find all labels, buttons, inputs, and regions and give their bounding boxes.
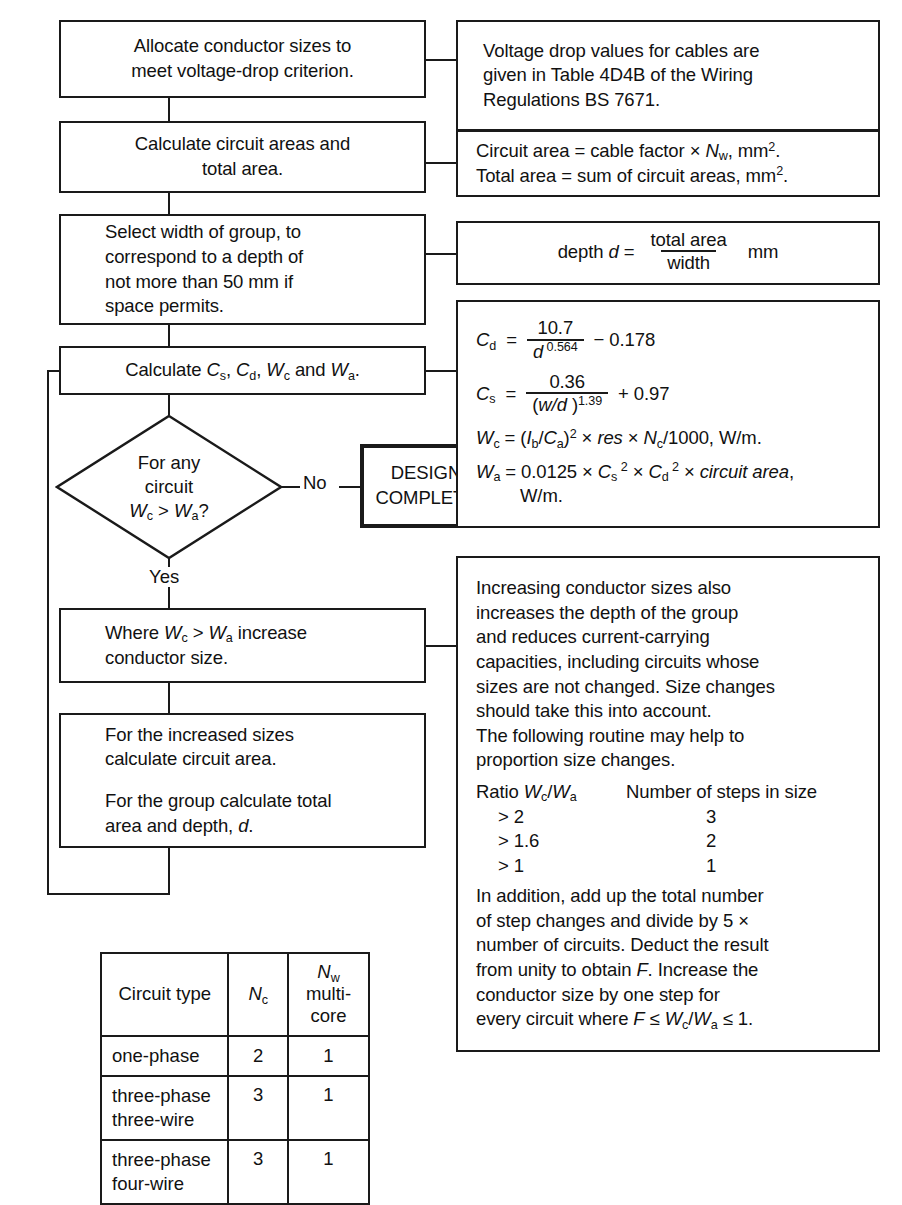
connector-allocate-to-note-voltage [425,59,458,61]
table-cell-circuit-type: three-phase four-wire [101,1140,228,1204]
connector-decision-no-right [339,486,361,488]
feedback-loop-down [168,848,170,895]
flow-box-select-width-line-4: space permits. [105,294,408,319]
table-cell-nw: 1 [288,1076,369,1140]
connector-increase-to-note-increasing [425,645,458,647]
table-header-nw: Nw multi-core [288,953,369,1036]
flow-box-calc-areas-line-2: total area. [77,157,408,182]
formula-wa: Wa = 0.0125 × Cs 2 × Cd 2 × circuit area… [476,460,862,509]
flow-box-calc-areas-line-1: Calculate circuit areas and [77,132,408,157]
table-header-nc: Nc [228,953,288,1036]
decision-no-label: No [300,473,330,493]
flow-box-recalculate: For the increased sizes calculate circui… [59,713,426,848]
flow-box-select-width-line-2: correspond to a depth of [105,245,408,270]
table-cell-circuit-type-line-2: four-wire [112,1173,184,1194]
flow-box-increase-size-line-2: conductor size. [105,646,408,671]
note-closing-line-5: conductor size by one step for [476,983,862,1008]
ratio-table-header-right: Number of steps in size [626,780,817,805]
flow-box-increase-size-line-1: Where Wc > Wa increase [105,621,408,646]
table-cell-circuit-type-line-1: three-phase [112,1149,211,1170]
flow-box-select-width: Select width of group, to correspond to … [59,214,426,325]
table-cell-circuit-type: one-phase [101,1036,228,1076]
depth-numerator: total area [645,229,733,250]
note-increasing-line-5: sizes are not changed. Size changes [476,675,862,700]
table-row: three-phase three-wire 3 1 [101,1076,369,1140]
circuit-type-table: Circuit type Nc Nw multi-core one-phase … [100,952,370,1205]
note-circuit-area-line-1: Circuit area = cable factor × Nw, mm2. [476,139,862,164]
note-increasing-line-8: proportion size changes. [476,748,862,773]
note-increasing-line-7: The following routine may help to [476,724,862,749]
table-row: three-phase four-wire 3 1 [101,1140,369,1204]
table-cell-circuit-type: three-phase three-wire [101,1076,228,1140]
note-formulas: Cd = 10.7 d 0.564 − 0.178 Cs = 0.36 (w/d… [456,300,880,528]
note-voltage-drop: Voltage drop values for cables are given… [456,20,880,131]
flow-box-recalculate-line-2: calculate circuit area. [105,747,408,772]
connector-selectwidth-to-calcc [168,325,170,346]
ratio-table-header: Ratio Wc/Wa Number of steps in size [476,780,862,805]
ratio-table-row: > 1.6 2 [476,829,862,854]
note-increasing-sizes: Increasing conductor sizes also increase… [456,556,880,1052]
decision-diamond: For any circuit Wc > Wa? [55,414,283,560]
ratio-table-header-left: Ratio Wc/Wa [476,780,626,805]
flow-box-select-width-line-3: not more than 50 mm if [105,270,408,295]
formula-cs: Cs = 0.36 (w/d )1.39 + 0.97 [476,373,862,418]
note-increasing-line-1: Increasing conductor sizes also [476,576,862,601]
note-closing-line-6: every circuit where F ≤ Wc/Wa ≤ 1. [476,1007,862,1032]
formula-cd: Cd = 10.7 d 0.564 − 0.178 [476,319,862,364]
table-cell-nw: 1 [288,1036,369,1076]
ratio-steps: 2 [626,829,796,854]
note-circuit-area-line-2: Total area = sum of circuit areas, mm2. [476,164,862,189]
table-cell-nw: 1 [288,1140,369,1204]
decision-yes-label: Yes [146,567,182,587]
connector-selectwidth-to-note-depth [425,253,458,255]
ratio-table-row: > 2 3 [476,805,862,830]
flow-box-recalculate-line-4: area and depth, d. [105,814,408,839]
note-depth-formula-expression: depth d = total area width mm [458,231,878,276]
note-circuit-area: Circuit area = cable factor × Nw, mm2. T… [456,130,880,197]
connector-decision-no-left [281,486,302,488]
flow-box-calc-coefficients-text: Calculate Cs, Cd, Wc and Wa. [61,358,424,383]
table-row: one-phase 2 1 [101,1036,369,1076]
note-increasing-line-3: and reduces current-carrying [476,625,862,650]
connector-increase-to-recalc [168,683,170,713]
flow-box-increase-size: Where Wc > Wa increase conductor size. [59,608,426,683]
connector-calcareas-to-note-area [425,162,458,164]
flow-box-calc-areas: Calculate circuit areas and total area. [59,121,426,193]
note-closing-line-4: from unity to obtain F. Increase the [476,958,862,983]
ratio-steps: 3 [626,805,796,830]
flow-box-allocate-line-1: Allocate conductor sizes to [77,34,408,59]
flow-box-recalculate-line-3: For the group calculate total [105,789,408,814]
note-increasing-line-4: capacities, including circuits whose [476,650,862,675]
decision-diamond-shape [55,414,283,560]
note-voltage-drop-line-1: Voltage drop values for cables are [483,39,862,64]
flow-box-allocate-line-2: meet voltage-drop criterion. [77,59,408,84]
connector-calcc-to-decision [168,395,170,415]
table-cell-nc: 3 [228,1076,288,1140]
note-closing-line-1: In addition, add up the total number [476,884,862,909]
note-voltage-drop-line-3: Regulations BS 7671. [483,88,862,113]
depth-denominator: width [661,250,716,273]
ratio-steps: 1 [626,854,796,879]
connector-calcc-to-note-formulas [425,370,458,372]
table-header-circuit-type: Circuit type [101,953,228,1036]
ratio-value: > 2 [476,805,626,830]
formula-wc: Wc = (Ib/Ca)2 × res × Nc/1000, W/m. [476,426,862,451]
note-closing-line-3: number of circuits. Deduct the result [476,933,862,958]
note-depth-formula: depth d = total area width mm [456,221,880,285]
table-cell-nc: 2 [228,1036,288,1076]
ratio-value: > 1.6 [476,829,626,854]
table-cell-circuit-type-line-2: three-wire [112,1109,194,1130]
ratio-table-row: > 1 1 [476,854,862,879]
connector-calcareas-to-selectwidth [168,193,170,214]
table-cell-circuit-type-line-1: three-phase [112,1085,211,1106]
feedback-loop-bottom [47,893,170,895]
flow-box-select-width-line-1: Select width of group, to [105,220,408,245]
note-increasing-line-2: increases the depth of the group [476,601,862,626]
note-closing-line-2: of step changes and divide by 5 × [476,909,862,934]
feedback-loop-into-calcc [47,370,61,372]
table-cell-nc: 3 [228,1140,288,1204]
table-header-row: Circuit type Nc Nw multi-core [101,953,369,1036]
feedback-loop-up [47,370,49,895]
ratio-value: > 1 [476,854,626,879]
